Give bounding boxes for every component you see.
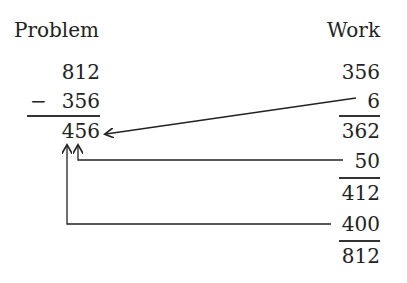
- arrow-6-to-answer: [106, 98, 356, 134]
- arrow-400-to-answer: [67, 146, 331, 224]
- arrow-50-to-answer: [78, 146, 343, 160]
- arrows-layer: [0, 0, 407, 283]
